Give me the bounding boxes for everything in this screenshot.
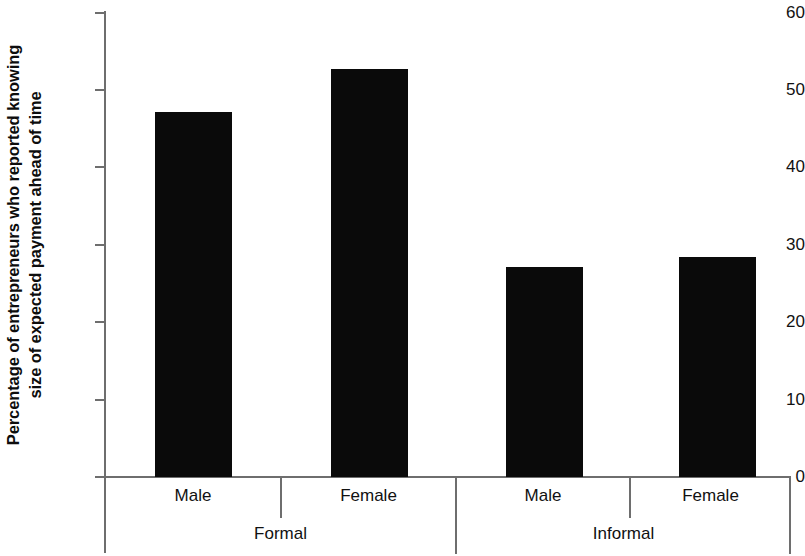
x-category-label-formal-male: Male — [106, 486, 280, 506]
bar-informal-male — [506, 267, 583, 477]
y-axis-title-line-1: Percentage of entrepreneurs who reported… — [4, 45, 22, 445]
x-category-label-informal-female: Female — [631, 486, 790, 506]
y-axis-title: Percentage of entrepreneurs who reported… — [0, 0, 48, 490]
plot-area — [106, 11, 790, 477]
bar-formal-female — [331, 69, 408, 477]
x-category-label-formal-female: Female — [282, 486, 455, 506]
x-category-label-informal-male: Male — [457, 486, 629, 506]
bar-formal-male — [155, 112, 232, 477]
bar-informal-female — [679, 257, 756, 477]
x-group-label-formal: Formal — [106, 524, 455, 544]
y-axis-title-line-2: size of expected payment ahead of time — [26, 91, 44, 398]
bar-chart: Percentage of entrepreneurs who reported… — [0, 0, 805, 556]
x-group-label-informal: Informal — [457, 524, 790, 544]
